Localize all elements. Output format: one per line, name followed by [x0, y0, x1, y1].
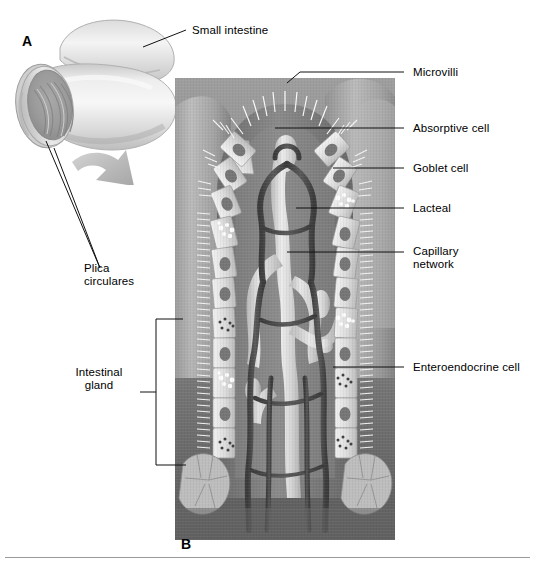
- neighbor-villus-right: [325, 79, 395, 378]
- submucosa-band: [175, 508, 395, 540]
- epithelium-left: [197, 120, 263, 458]
- goblet-cell-granules-right: [336, 193, 355, 328]
- goblet-cell: [334, 307, 358, 338]
- villus-histology-panel: [175, 78, 395, 540]
- neighbor-villus-left: [175, 96, 231, 378]
- intestinal-gland-left: [179, 454, 230, 515]
- goblet-cell: [328, 185, 360, 221]
- label-plica-circulares: Plica circulares: [84, 262, 134, 288]
- columnar-cell: [212, 156, 247, 193]
- enteroendocrine-cell: [212, 307, 236, 338]
- columnar-cell: [213, 338, 235, 368]
- cell-nuclei-left: [219, 141, 248, 421]
- label-small-intestine: Small intestine: [192, 24, 268, 37]
- villus-cross-section-drawing: [175, 78, 395, 540]
- columnar-cell: [332, 216, 361, 250]
- columnar-cell: [334, 277, 359, 309]
- villus-lamina-propria: [217, 104, 353, 498]
- capillary-network-vessels: [248, 146, 327, 530]
- absorptive-cell: [313, 131, 350, 167]
- intestinal-gland-right: [341, 454, 392, 515]
- enteroendocrine-cell: [335, 428, 357, 458]
- panel-label-b: B: [181, 536, 191, 552]
- goblet-cell: [210, 216, 239, 250]
- microvilli-brush-border-left: [197, 120, 234, 448]
- label-enteroendocrine-cell: Enteroendocrine cell: [413, 361, 520, 374]
- neighbor-villus-far-right: [351, 99, 395, 328]
- figure-bottom-rule: [5, 557, 530, 558]
- epithelium-right: [231, 91, 373, 458]
- label-microvilli: Microvilli: [413, 66, 458, 79]
- goblet-cell-granules-left: [217, 221, 234, 388]
- columnar-cell: [335, 398, 357, 428]
- magnification-arrow: [72, 150, 134, 185]
- columnar-cell: [210, 185, 242, 221]
- microvilli-apical-cap: [231, 91, 339, 134]
- figure-intestinal-villus: A B Small intestine Plica circulares Int…: [0, 0, 537, 583]
- label-absorptive-cell: Absorptive cell: [413, 122, 489, 135]
- panel-label-a: A: [22, 33, 32, 49]
- columnar-cell: [333, 247, 359, 280]
- lacteal-vessel: [245, 135, 343, 498]
- enteroendocrine-cell: [335, 368, 357, 398]
- columnar-cell: [211, 247, 237, 280]
- columnar-cell: [322, 156, 357, 193]
- enteroendocrine-granules-left: [219, 318, 235, 452]
- label-capillary-network: Capillary network: [413, 245, 459, 271]
- cell-nuclei-right: [322, 141, 350, 421]
- columnar-cell: [219, 131, 256, 167]
- columnar-cell: [219, 132, 263, 182]
- intestinal-glands: [179, 454, 392, 515]
- goblet-cell: [213, 368, 235, 398]
- columnar-cell: [212, 277, 237, 309]
- label-lacteal: Lacteal: [413, 202, 451, 215]
- label-intestinal-gland: Intestinal gland: [60, 366, 138, 392]
- microvilli-brush-border-right: [336, 120, 373, 448]
- columnar-cell: [213, 398, 235, 428]
- enteroendocrine-cell: [213, 428, 235, 458]
- label-goblet-cell: Goblet cell: [413, 162, 468, 175]
- columnar-cell: [335, 338, 357, 368]
- enteroendocrine-granules-right: [337, 374, 353, 450]
- villus-core-highlight: [235, 124, 335, 478]
